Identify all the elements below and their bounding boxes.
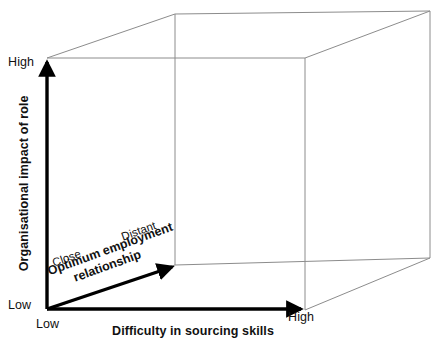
y-axis-title: Organisational impact of role xyxy=(18,111,31,271)
x-axis-high-label: High xyxy=(288,311,314,324)
y-axis-high-label: High xyxy=(8,56,34,69)
x-axis-low-label: Low xyxy=(36,318,59,331)
diagram-canvas: Organisational impact of role High Low L… xyxy=(0,0,434,344)
three-dimensional-axes-graphic xyxy=(0,0,434,344)
cube-edge-top-left-connector xyxy=(47,14,175,58)
y-axis-low-label: Low xyxy=(8,299,31,312)
cube-edge-bottom-right-connector xyxy=(305,258,430,310)
cube-edge-top-right-connector xyxy=(305,11,430,58)
x-axis-title: Difficulty in sourcing skills xyxy=(112,325,274,338)
cube-back-face-edges xyxy=(175,11,430,265)
